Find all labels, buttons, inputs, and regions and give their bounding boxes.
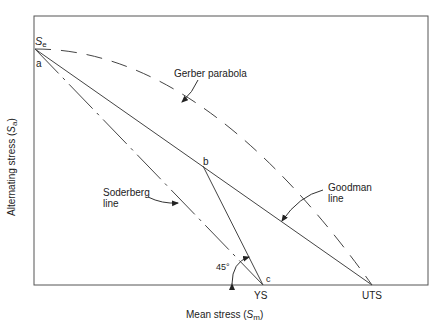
gerber-label: Gerber parabola [174, 68, 247, 79]
soderberg-line [35, 49, 263, 285]
point-b-label: b [203, 156, 209, 167]
y-axis-label: Alternating stress (Sa) [6, 66, 19, 216]
x-axis-label: Mean stress (Sm) [186, 309, 263, 323]
point-a-label: a [36, 58, 42, 69]
angle-label: 45° [216, 262, 230, 273]
point-c-label: c [266, 274, 271, 285]
yield-line-bc [203, 166, 263, 285]
soderberg-label: Soderbergline [103, 187, 150, 209]
uts-tick-label: UTS [362, 290, 382, 301]
se-label: Se [35, 36, 47, 50]
ys-tick-label: YS [254, 290, 267, 301]
angle-arc [232, 257, 249, 284]
goodman-arrow [282, 190, 323, 221]
soderberg-arrow [148, 197, 178, 203]
fatigue-diagram [0, 0, 439, 332]
goodman-label: Goodmanline [328, 182, 372, 204]
